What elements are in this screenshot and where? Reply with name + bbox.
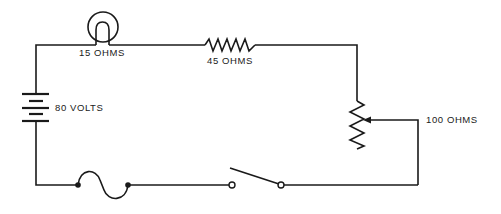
resistor-label: 45 OHMS bbox=[207, 55, 253, 66]
wire-top-right bbox=[255, 45, 357, 101]
wiper-arrow-icon bbox=[363, 117, 418, 186]
battery-label: 80 VOLTS bbox=[55, 102, 103, 113]
battery-icon bbox=[22, 88, 49, 121]
wire-bottom-left bbox=[36, 121, 78, 185]
resistor-icon bbox=[205, 39, 255, 51]
rheostat-icon bbox=[350, 101, 364, 149]
fuse-icon bbox=[75, 172, 131, 199]
rheostat-label: 100 OHMS bbox=[426, 114, 478, 125]
switch-icon[interactable] bbox=[229, 168, 284, 188]
lamp-label: 15 OHMS bbox=[79, 47, 125, 58]
lamp-icon bbox=[88, 12, 118, 45]
